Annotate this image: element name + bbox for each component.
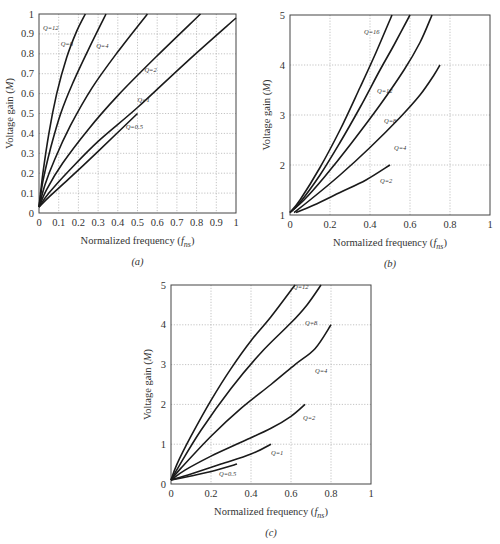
chart-caption: (c)	[265, 527, 277, 539]
curve-label: Q=0.5	[219, 470, 237, 477]
x-tick-label: 0.2	[323, 219, 336, 230]
chart-caption: (a)	[131, 256, 144, 268]
curve-label: Q=2	[144, 66, 157, 73]
y-tick-label: 0.1	[21, 188, 34, 199]
curve-label: Q=12	[43, 24, 59, 31]
curve-label: Q=1	[138, 96, 150, 103]
plot-frame	[290, 15, 490, 215]
y-tick-label: 0.6	[21, 88, 34, 99]
curve-label: Q=8	[305, 319, 318, 326]
x-tick-label: 0.7	[170, 217, 183, 228]
y-tick-label: 0	[29, 208, 34, 219]
y-tick-label: 0.4	[21, 128, 35, 139]
y-tick-label: 0.8	[21, 48, 34, 59]
y-tick-label: 3	[161, 359, 166, 370]
y-axis-title: Voltage gain (M)	[261, 79, 273, 150]
curve-label: Q=2	[380, 177, 393, 184]
y-axis-title: Voltage gain (M)	[142, 349, 154, 420]
x-tick-label: 0	[168, 488, 173, 499]
chart-b: 00.20.40.60.8112345Normalized frequency …	[261, 10, 493, 271]
y-tick-label: 1	[161, 439, 166, 450]
chart-c: 00.20.40.60.81012345Normalized frequency…	[142, 280, 374, 540]
y-tick-label: 0.9	[21, 28, 34, 39]
curve-label: Q=12	[293, 283, 309, 290]
chart-a: 00.10.20.30.40.50.60.70.80.9100.10.20.30…	[4, 9, 239, 269]
x-tick-label: 1	[233, 217, 238, 228]
x-tick-label: 0.5	[131, 217, 144, 228]
y-tick-label: 1	[29, 9, 34, 20]
y-tick-label: 1	[280, 210, 285, 221]
y-tick-label: 2	[280, 160, 285, 171]
x-tick-label: 0.8	[443, 219, 456, 230]
x-tick-label: 0.6	[403, 219, 416, 230]
x-tick-label: 0.1	[52, 217, 65, 228]
x-tick-label: 0.6	[284, 488, 297, 499]
y-tick-label: 5	[161, 280, 166, 291]
figure-canvas: 00.10.20.30.40.50.60.70.80.9100.10.20.30…	[0, 0, 500, 544]
x-tick-label: 1	[487, 219, 492, 230]
x-tick-label: 0.8	[324, 488, 337, 499]
y-tick-label: 0.5	[21, 108, 34, 119]
curve-q-2	[171, 404, 305, 480]
curve-label: Q=4	[315, 367, 328, 374]
curve-label: Q=2	[303, 414, 316, 421]
curve-q-8	[171, 285, 321, 480]
curve-label: Q=0.5	[126, 123, 144, 130]
x-axis-title: Normalized frequency (fns)	[81, 235, 195, 249]
curve-label: Q=4	[394, 144, 407, 151]
x-tick-label: 0.4	[244, 488, 258, 499]
x-axis-title: Normalized frequency (fns)	[214, 506, 328, 520]
y-tick-label: 3	[280, 110, 285, 121]
x-tick-label: 0	[287, 219, 292, 230]
curve-label: Q=4	[96, 42, 109, 49]
y-tick-label: 4	[161, 319, 167, 330]
x-tick-label: 0.4	[111, 217, 125, 228]
curve-q-4	[39, 14, 147, 207]
curve-q-16	[290, 15, 392, 213]
y-tick-label: 0.2	[21, 168, 34, 179]
x-tick-label: 0	[36, 217, 41, 228]
x-tick-label: 0.9	[210, 217, 223, 228]
y-tick-label: 2	[161, 399, 166, 410]
x-tick-label: 0.6	[151, 217, 164, 228]
x-tick-label: 0.8	[190, 217, 203, 228]
x-tick-label: 0.2	[204, 488, 217, 499]
curve-label: Q=1	[271, 449, 283, 456]
curve-label: Q=8	[61, 40, 74, 47]
y-tick-label: 0.7	[21, 68, 34, 79]
x-tick-label: 0.4	[363, 219, 377, 230]
y-tick-label: 0.3	[21, 148, 34, 159]
x-axis-title: Normalized frequency (fns)	[333, 237, 447, 251]
curve-label: Q=16	[364, 28, 380, 35]
y-axis-title: Voltage gain (M)	[4, 78, 16, 149]
y-tick-label: 4	[280, 60, 286, 71]
x-tick-label: 0.2	[72, 217, 85, 228]
x-tick-label: 1	[368, 488, 373, 499]
y-tick-label: 5	[280, 10, 285, 21]
x-tick-label: 0.3	[92, 217, 105, 228]
chart-caption: (b)	[384, 258, 397, 270]
y-tick-label: 0	[161, 479, 166, 490]
curve-q-4	[294, 65, 440, 213]
